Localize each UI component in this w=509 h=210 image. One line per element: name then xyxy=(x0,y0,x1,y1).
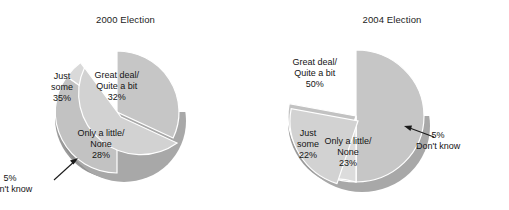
pie-2004-graphic xyxy=(0,0,509,210)
label-line-2: Don't know xyxy=(416,141,460,152)
pie-2004-label-dont-know: 5% Don't know xyxy=(416,130,460,152)
pie-chart-figure: 2000 Election xyxy=(0,0,509,210)
label-value: 5% xyxy=(416,130,460,141)
pie-2004-slices xyxy=(288,50,424,184)
